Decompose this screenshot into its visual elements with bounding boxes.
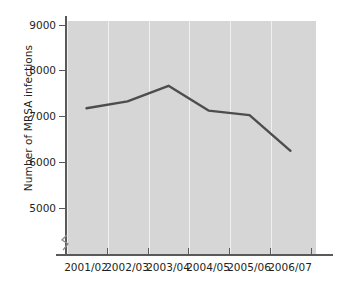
data-line-mrsa-infections <box>87 86 291 151</box>
series-layer <box>0 0 337 290</box>
mrsa-infections-line-chart: Number of MRSA infections 9000 8000 7000… <box>0 0 337 290</box>
